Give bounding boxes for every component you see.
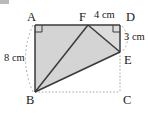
vertex-label-A: A <box>27 11 36 24</box>
geometry-figure: A F D E C B 8 cm 4 cm 3 cm <box>0 0 148 120</box>
vertex-label-C: C <box>123 94 131 107</box>
arc-AB-extent <box>26 25 34 92</box>
dimension-label-FD: 4 cm <box>94 10 115 21</box>
vertex-label-F: F <box>79 11 86 24</box>
vertex-label-D: D <box>126 11 135 24</box>
dimension-label-AB: 8 cm <box>4 53 25 64</box>
dimension-label-DE: 3 cm <box>124 32 145 43</box>
vertex-label-E: E <box>124 54 132 67</box>
vertex-label-B: B <box>26 94 34 107</box>
